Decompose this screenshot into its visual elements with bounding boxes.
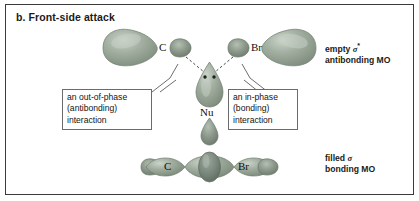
callout-out-of-phase-line3: interaction <box>67 115 147 126</box>
atom-label-carbon-bonding: C <box>164 160 171 172</box>
callout-out-of-phase-line1: an out-of-phase <box>67 92 147 103</box>
callout-in-phase-line1: an in-phase <box>233 92 293 103</box>
atom-label-bromine-bonding: Br <box>238 160 249 172</box>
antibonding-mo-label-line2: antibonding MO <box>325 55 390 65</box>
atom-label-nucleophile: Nu <box>200 106 213 118</box>
antibonding-mo-label: empty σ* antibonding MO <box>325 42 390 66</box>
figure-front-side-attack: b. Front-side attack <box>0 0 419 201</box>
star-symbol: * <box>357 42 360 49</box>
atom-label-bromine-antibonding: Br <box>251 41 262 53</box>
sigma-symbol-bonding: σ <box>347 153 352 163</box>
atom-label-carbon-antibonding: C <box>159 41 166 53</box>
bonding-mo-label-line2: bonding MO <box>325 164 375 174</box>
bonding-mo-label: filled σ bonding MO <box>325 153 375 175</box>
callout-in-phase: an in-phase (bonding) interaction <box>228 89 298 130</box>
callout-out-of-phase-line2: (antibonding) <box>67 103 147 114</box>
callout-in-phase-line3: interaction <box>233 115 293 126</box>
bonding-mo-label-line1: filled <box>325 153 347 163</box>
antibonding-mo-label-line1: empty <box>325 44 353 54</box>
figure-title: b. Front-side attack <box>16 11 115 23</box>
callout-out-of-phase: an out-of-phase (antibonding) interactio… <box>62 89 152 130</box>
callout-in-phase-line2: (bonding) <box>233 103 293 114</box>
